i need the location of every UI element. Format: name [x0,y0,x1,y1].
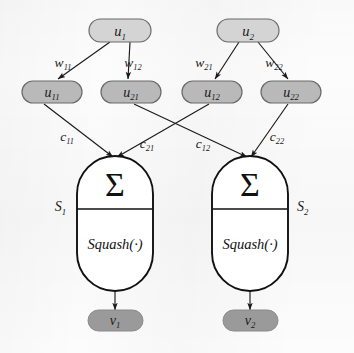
unit-2-sum-symbol: Σ [240,166,260,203]
unit-2-state-label: S2 [297,199,309,217]
output-node-v2[interactable]: v2 [223,310,278,331]
input-node-u1[interactable]: u1 [89,19,151,42]
edge-group-weights [58,42,288,79]
c-label-c22: c22 [270,129,284,146]
edge-u2-u12 [215,42,239,79]
c-label-c21: c21 [140,136,154,153]
processing-unit-1: Σ Squash(·) S1 [55,156,153,291]
edge-group-outputs [115,291,250,310]
edge-u1-u11 [58,42,110,79]
processing-unit-2: Σ Squash(·) S2 [212,156,309,291]
hidden-node-u12[interactable]: u12 [182,81,242,103]
c-label-c11: c11 [60,129,74,146]
hidden-node-u21[interactable]: u21 [101,81,161,103]
edge-group-c [44,104,288,157]
input-node-u2[interactable]: u2 [217,19,279,42]
network-diagram: Σ Squash(·) S1 Σ Squash(·) S2 u1 [0,0,354,353]
weight-label-w12: w12 [124,55,141,72]
weight-label-w22: w22 [265,55,282,72]
output-node-v1[interactable]: v1 [88,310,143,331]
weight-label-w21: w21 [195,55,212,72]
weight-label-w11: w11 [55,55,72,72]
unit-1-squash-label: Squash(·) [87,236,142,253]
unit-1-sum-symbol: Σ [105,166,125,203]
unit-1-state-label: S1 [55,199,66,217]
diagram-canvas: Σ Squash(·) S1 Σ Squash(·) S2 u1 [0,0,354,353]
hidden-node-u11[interactable]: u11 [22,81,82,103]
unit-2-squash-label: Squash(·) [222,236,277,253]
c-label-group: c11 c21 c12 c22 [60,129,284,153]
edge-u11-unit1 [44,104,113,157]
hidden-node-u22[interactable]: u22 [261,81,321,103]
